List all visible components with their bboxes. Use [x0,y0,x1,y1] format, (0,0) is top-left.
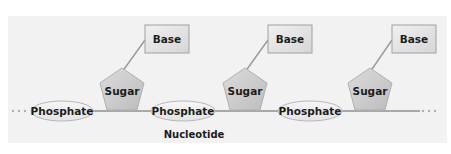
nucleotide-label: Nucleotide [164,129,225,140]
sugar-label: Sugar [228,85,264,97]
sugar-label: Sugar [353,85,389,97]
base-label: Base [400,33,428,45]
phosphate-label: Phosphate [279,105,342,117]
base-label: Base [276,33,304,45]
phosphate-label: Phosphate [31,105,94,117]
nucleotide-chain-diagram: Base Sugar Phosphate Base Sugar Phosphat… [0,0,451,154]
phosphate-label: Phosphate [152,105,215,117]
sugar-label: Sugar [105,85,141,97]
base-label: Base [153,33,181,45]
